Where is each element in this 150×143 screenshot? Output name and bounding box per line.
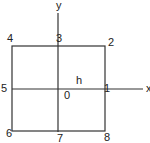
grid-diagram: y x h 0 1 2 3 4 5 6 7 8 bbox=[0, 0, 150, 143]
node-label-8: 8 bbox=[104, 131, 110, 143]
x-axis-label: x bbox=[146, 82, 150, 94]
node-label-1: 1 bbox=[104, 82, 110, 94]
node-label-0: 0 bbox=[64, 89, 70, 101]
y-axis-label: y bbox=[56, 0, 62, 11]
node-label-6: 6 bbox=[6, 127, 12, 139]
node-label-3: 3 bbox=[56, 32, 62, 44]
node-label-5: 5 bbox=[1, 82, 7, 94]
node-label-4: 4 bbox=[7, 32, 13, 44]
node-label-7: 7 bbox=[57, 132, 63, 143]
node-label-2: 2 bbox=[108, 36, 114, 48]
spacing-label: h bbox=[76, 74, 82, 86]
